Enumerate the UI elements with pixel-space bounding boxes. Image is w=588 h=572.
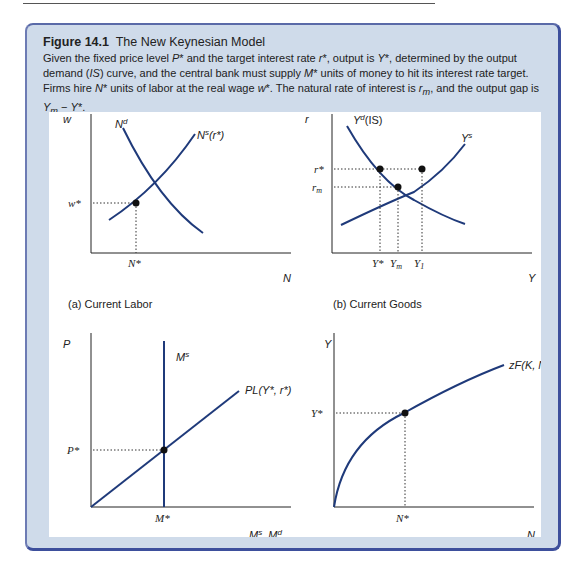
is-curve [347, 126, 465, 224]
tick-y-star: Y* [372, 257, 384, 269]
axis-ms-md: Ms, Md [249, 528, 282, 537]
figure-caption: Given the fixed price level P* and the t… [43, 51, 548, 119]
page-rule [23, 3, 435, 4]
label-zf: zF(K, N) [508, 359, 541, 371]
axis-y-b: Y [528, 272, 536, 284]
label-pl: PL(Y*, r*) [245, 384, 292, 396]
equilibrium-point-a [133, 200, 140, 207]
axes-b [332, 114, 532, 253]
axes-d [334, 333, 534, 507]
panel-a: w Nd Ns(r*) w* N* N (a) Current Labor [63, 113, 291, 310]
tick-p-star: P* [66, 444, 80, 456]
label-nd: Nd [115, 117, 128, 130]
tick-n-star: N* [127, 257, 141, 269]
axis-p: P [63, 338, 71, 350]
tick-y1: Y1 [414, 257, 424, 271]
tick-w-star: w* [68, 197, 81, 209]
point-y-star [377, 166, 384, 173]
figure-frame: Figure 14.1 The New Keynesian Model Give… [25, 23, 561, 551]
figure-number: Figure 14.1 [43, 35, 109, 49]
axes-c [91, 333, 291, 507]
point-y1 [419, 166, 426, 173]
tick-n-star-d: N* [395, 512, 409, 524]
tick-m-star: M* [154, 512, 170, 524]
label-ns: Ns(r*) [197, 128, 225, 141]
tick-ym: Ym [390, 257, 402, 271]
axis-r: r [305, 113, 310, 125]
diagram-svg: w Nd Ns(r*) w* N* N (a) Current Labor r … [49, 112, 541, 537]
tick-y-star-d: Y* [311, 407, 323, 419]
labor-demand-curve [123, 128, 203, 233]
guides-a [93, 203, 136, 253]
equilibrium-point-d [402, 410, 409, 417]
figure-title: The New Keynesian Model [116, 35, 265, 49]
axis-n-a: N [283, 272, 291, 284]
label-ms: Ms [176, 350, 189, 363]
label-is: Yd(IS) [353, 113, 383, 126]
axis-w: w [63, 113, 72, 125]
production-function [334, 365, 504, 507]
tick-rm: rm [312, 181, 322, 195]
guides-b [334, 169, 422, 253]
equilibrium-point-c [161, 447, 168, 454]
output-supply-curve [341, 144, 465, 225]
guides-d [336, 413, 405, 507]
axis-n-d: N [527, 529, 535, 537]
panel-b: r Yd(IS) Ys r* rm Y* Ym Y1 Y (b) Current… [305, 113, 536, 310]
diagram-panel: w Nd Ns(r*) w* N* N (a) Current Labor r … [49, 112, 541, 537]
figure-heading: Figure 14.1 The New Keynesian Model [43, 35, 265, 49]
axes-a [91, 114, 291, 253]
caption-b: (b) Current Goods [333, 298, 422, 310]
label-ys: Ys [461, 131, 472, 144]
tick-r-star: r* [314, 163, 324, 175]
point-ym [395, 184, 402, 191]
axis-y-d: Y [324, 338, 332, 350]
caption-a: (a) Current Labor [68, 298, 153, 310]
